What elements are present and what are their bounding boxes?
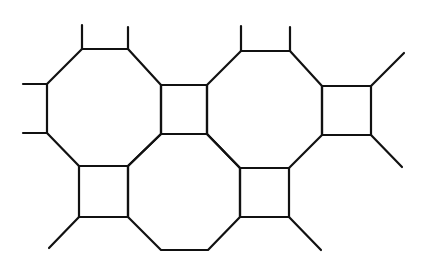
stub-bottom-right bbox=[289, 217, 321, 250]
square-top-middle bbox=[161, 85, 207, 134]
square-top-right bbox=[322, 86, 371, 135]
stub-bottom-left bbox=[49, 217, 79, 248]
square-bottom-right bbox=[240, 168, 289, 217]
polygon-group bbox=[47, 49, 371, 250]
tiling-diagram bbox=[0, 0, 431, 275]
stub-right-square-down bbox=[371, 135, 402, 167]
stub-right-square-up bbox=[371, 53, 404, 86]
octagon-top-left bbox=[47, 49, 161, 166]
square-bottom-left bbox=[79, 166, 128, 217]
octagon-bottom-middle bbox=[128, 134, 240, 250]
